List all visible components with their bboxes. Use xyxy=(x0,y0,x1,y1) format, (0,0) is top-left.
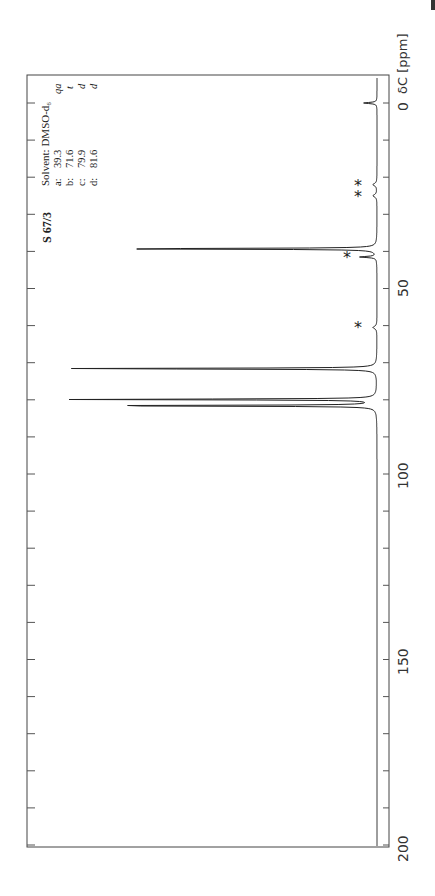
assignment-d-mult: d xyxy=(88,84,99,89)
assignment-b-label: b: xyxy=(64,178,75,186)
tick-label-100: 100 xyxy=(395,462,411,489)
assignment-c-label: c: xyxy=(76,178,87,186)
assignment-a-mult: qa xyxy=(52,84,63,95)
artifact-markers: **** xyxy=(343,176,362,338)
axis-title: δC [ppm] xyxy=(395,34,410,94)
assignment-d-shift: 81.6 xyxy=(88,150,99,168)
spectrum-trace xyxy=(69,78,377,846)
tick-label-150: 150 xyxy=(395,648,411,675)
svg-text:*: * xyxy=(354,187,362,206)
sample-id: S 67/3 xyxy=(40,212,55,243)
tick-label-200: 200 xyxy=(395,835,411,862)
svg-text:*: * xyxy=(354,318,362,337)
left-frame-ticks xyxy=(27,103,35,845)
assignment-b-shift: 71.6 xyxy=(64,150,75,168)
tick-label-50: 50 xyxy=(395,279,411,297)
ppm-axis-ticks xyxy=(383,103,389,845)
assignment-b-mult: t xyxy=(64,86,75,89)
nmr-spectrum-plot: **** xyxy=(0,0,435,896)
assignment-c-mult: d xyxy=(76,84,87,89)
assignment-a-shift: 39.3 xyxy=(52,150,63,168)
assignment-a-label: a: xyxy=(52,178,63,186)
assignment-c-shift: 79.9 xyxy=(76,150,87,168)
solvent-label: Solvent: DMSO-d₆ xyxy=(39,102,51,186)
tick-label-0: 0 xyxy=(395,102,411,111)
assignment-d-label: d: xyxy=(88,178,99,186)
svg-text:*: * xyxy=(343,248,351,267)
corner-mark xyxy=(431,0,435,10)
plot-frame xyxy=(27,75,389,847)
